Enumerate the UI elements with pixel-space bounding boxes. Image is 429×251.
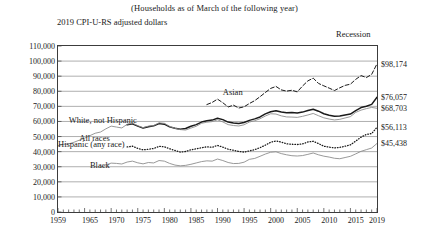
endpoint-value-label: $56,113: [381, 123, 407, 132]
recession-legend-label: Recession: [336, 29, 370, 39]
x-tick-label: 1959: [50, 216, 66, 225]
chart-subtitle: (Households as of March of the following…: [0, 3, 429, 13]
endpoint-value-label: $68,703: [381, 104, 407, 113]
x-tick-label: 1995: [241, 216, 257, 225]
y-tick-label: 100,000: [29, 57, 55, 66]
x-tick-label: 1965: [82, 216, 98, 225]
series-annotation: Asian: [223, 87, 243, 97]
series-annotation: White, not Hispanic: [69, 115, 137, 125]
y-tick-label: 80,000: [33, 87, 55, 96]
y-tick-label: 70,000: [33, 102, 55, 111]
y-tick-label: 90,000: [33, 72, 55, 81]
endpoint-value-label: $76,057: [381, 93, 407, 102]
endpoint-value-labels: $98,174$76,057$68,703$56,113$45,438: [381, 45, 429, 213]
x-tick-label: 1980: [162, 216, 178, 225]
series-line: [127, 127, 377, 152]
endpoint-value-label: $45,438: [381, 139, 407, 148]
endpoint-value-label: $98,174: [381, 59, 407, 68]
x-tick-label: 1985: [188, 216, 204, 225]
y-tick-label: 30,000: [33, 162, 55, 171]
y-tick-label: 20,000: [33, 177, 55, 186]
x-tick-label: 2015: [348, 216, 364, 225]
series-annotation: Black: [90, 160, 110, 170]
y-tick-label: 60,000: [33, 117, 55, 126]
y-tick-label: 50,000: [33, 132, 55, 141]
x-tick-label: 1990: [215, 216, 231, 225]
series-line: [101, 143, 377, 167]
x-axis-tick-labels: 1959196519701975198019851990199520002005…: [0, 216, 429, 232]
chart-root: (Households as of March of the following…: [0, 0, 429, 251]
y-tick-label: 10,000: [33, 192, 55, 201]
y-axis-caption: 2019 CPI-U-RS adjusted dollars: [57, 17, 167, 27]
series-canvas: [58, 46, 377, 212]
x-tick-label: 2005: [295, 216, 311, 225]
x-tick-label: 2010: [321, 216, 337, 225]
y-tick-label: 110,000: [29, 42, 55, 51]
x-tick-label: 1970: [108, 216, 124, 225]
series-annotation: Hispanic (any race): [58, 139, 125, 149]
x-tick-label: 2000: [268, 216, 284, 225]
y-tick-label: 40,000: [33, 147, 55, 156]
plot-area: [57, 45, 378, 213]
x-tick-label: 1975: [135, 216, 151, 225]
x-tick-label: 2019: [369, 216, 385, 225]
y-axis-tick-labels: 010,00020,00030,00040,00050,00060,00070,…: [0, 45, 55, 213]
